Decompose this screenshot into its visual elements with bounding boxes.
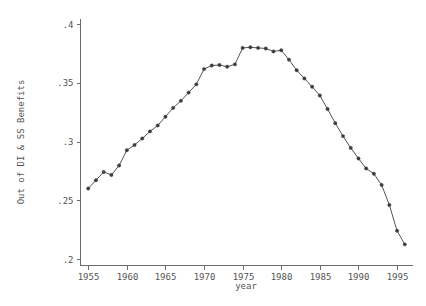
data-point [364,167,367,170]
data-point [94,179,97,182]
x-tick-label: 1965 [155,272,177,282]
data-point [249,46,252,49]
data-point [334,121,337,124]
data-point [341,134,344,137]
y-tick-label: .35 [57,78,73,88]
data-point [226,65,229,68]
data-point [395,229,398,232]
data-point [264,47,267,50]
data-point [102,170,105,173]
data-point [303,77,306,80]
x-tick-label: 1975 [233,272,255,282]
x-tick-label: 1955 [78,272,100,282]
data-point [318,94,321,97]
x-tick-label: 1985 [310,272,332,282]
y-tick-label: .25 [57,196,73,206]
data-point [403,243,406,246]
data-point [164,115,167,118]
data-point [187,91,190,94]
x-axis-ticks: 195519601965197019751980198519901995 [78,266,409,282]
data-point [110,173,113,176]
y-tick-label: .3 [63,137,74,147]
data-point [357,157,360,160]
x-tick-label: 1995 [387,272,409,282]
data-point [202,67,205,70]
data-point [388,203,391,206]
y-axis-title: Out of DI & SS Benefits [16,80,26,205]
data-point [87,187,90,190]
x-tick-label: 1960 [117,272,139,282]
data-point [287,58,290,61]
data-point [310,85,313,88]
data-point [133,143,136,146]
x-tick-label: 1990 [348,272,370,282]
data-point [272,50,275,53]
data-point [380,183,383,186]
data-point [295,69,298,72]
data-point [241,46,244,49]
data-point [349,146,352,149]
data-point [156,124,159,127]
data-point [171,106,174,109]
data-point [280,49,283,52]
data-point [195,83,198,86]
x-tick-label: 1970 [194,272,216,282]
data-point [141,137,144,140]
x-axis-title: year [235,281,257,291]
data-point [326,107,329,110]
y-tick-label: .2 [63,255,74,265]
line-chart: .2.25.3.35.4 195519601965197019751980198… [0,0,426,306]
data-point [148,130,151,133]
data-point [210,64,213,67]
data-point [117,164,120,167]
data-point [233,63,236,66]
data-point [256,46,259,49]
data-point [125,149,128,152]
x-tick-label: 1980 [271,272,293,282]
data-point [179,99,182,102]
data-point [372,172,375,175]
chart-figure: .2.25.3.35.4 195519601965197019751980198… [0,0,426,306]
data-point [218,63,221,66]
y-tick-label: .4 [63,20,74,30]
